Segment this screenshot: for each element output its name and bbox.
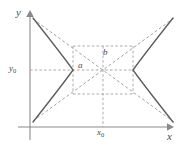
x0-tick-label: x0 [97,128,104,137]
hyperbola-plot-canvas [0,0,182,145]
semi-axis-b-label: b [103,48,108,57]
y-axis-label: y [16,7,21,18]
hyperbola-left-branch [33,18,73,122]
hyperbola-figure: y x y0 x0 a b [0,0,182,145]
y0-tick-label: y0 [9,64,16,73]
asymptote-falling-line [33,19,174,122]
center-guides-group [30,46,133,127]
asymptote-rising-line [33,18,174,121]
y0-subscript: 0 [13,67,16,74]
y-axis-arrowhead [26,10,34,17]
semi-axis-a-label: a [78,61,83,70]
x0-subscript: 0 [101,131,104,138]
x-axis-label: x [167,131,172,142]
